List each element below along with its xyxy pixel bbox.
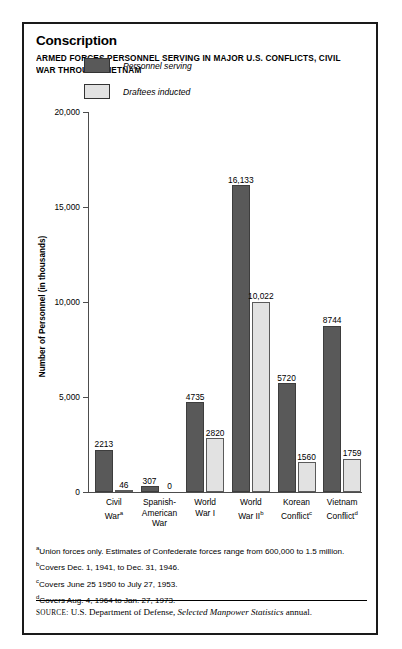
y-axis-tick <box>83 492 88 493</box>
x-axis-category-label: KoreanConflictc <box>281 497 312 521</box>
page-title: Conscription <box>36 33 117 48</box>
x-axis-line <box>88 492 362 493</box>
bar-personnel-serving: 307 <box>141 486 159 492</box>
footnote: bCovers Dec. 1, 1941, to Dec. 31, 1946. <box>36 558 366 574</box>
bar-value-label: 2820 <box>206 428 225 438</box>
bar-value-label: 10,022 <box>248 291 274 301</box>
bar-value-label: 46 <box>119 480 128 490</box>
bar-value-label: 5720 <box>277 373 296 383</box>
source-divider <box>36 600 367 601</box>
y-axis-tick-label: 20,000 <box>54 107 80 117</box>
y-axis-tick-label: 0 <box>75 487 80 497</box>
bar-value-label: 8744 <box>323 315 342 325</box>
bar-personnel-serving: 16,133 <box>232 185 250 492</box>
source-title-italic: Selected Manpower Statistics <box>177 607 283 617</box>
bar-value-label: 1759 <box>343 448 362 458</box>
y-axis-title: Number of Personnel (in thousands) <box>38 236 47 377</box>
y-axis-tick-label: 15,000 <box>54 202 80 212</box>
bar-value-label: 4735 <box>186 392 205 402</box>
y-axis-tick <box>83 397 88 398</box>
y-axis-tick <box>83 207 88 208</box>
x-axis-category-label: WorldWar IIb <box>238 497 263 521</box>
bar-personnel-serving: 4735 <box>186 402 204 492</box>
legend-swatch-draftees-inducted <box>84 84 110 99</box>
bar-draftees-inducted: 10,022 <box>252 302 270 492</box>
source-label: SOURCE: <box>36 609 68 617</box>
bar-draftees-inducted: 46 <box>115 490 133 492</box>
legend-item-draftees-inducted: Draftees inducted <box>84 84 192 99</box>
source-line: SOURCE: U.S. Department of Defense, Sele… <box>36 607 366 617</box>
plot-area: 05,00010,00015,00020,000 Number of Perso… <box>88 112 362 492</box>
bar-value-label: 16,133 <box>228 175 254 185</box>
bar-value-label: 2213 <box>95 439 114 449</box>
legend-label-personnel-serving: Personnel serving <box>123 61 192 71</box>
legend-item-personnel-serving: Personnel serving <box>84 58 192 73</box>
bar-value-label: 0 <box>167 481 172 491</box>
y-axis-tick <box>83 112 88 113</box>
footnote: aUnion forces only. Estimates of Confede… <box>36 542 366 558</box>
source-text-before: U.S. Department of Defense, <box>68 607 177 617</box>
bar-draftees-inducted: 1560 <box>298 462 316 492</box>
bar-draftees-inducted: 2820 <box>206 438 224 492</box>
y-axis-tick-label: 10,000 <box>54 297 80 307</box>
bar-personnel-serving: 5720 <box>278 383 296 492</box>
chart-legend: Personnel serving Draftees inducted <box>84 58 192 110</box>
y-axis-line <box>88 112 89 492</box>
bar-draftees-inducted: 1759 <box>343 459 361 492</box>
legend-swatch-personnel-serving <box>84 58 110 73</box>
footnote: cCovers June 25 1950 to July 27, 1953. <box>36 575 366 591</box>
footnote-list: aUnion forces only. Estimates of Confede… <box>36 542 366 607</box>
source-text-after: annual. <box>283 607 312 617</box>
y-axis-tick-label: 5,000 <box>59 392 80 402</box>
x-axis-category-label: Spanish-AmericanWar <box>142 497 177 529</box>
bar-personnel-serving: 8744 <box>323 326 341 492</box>
footnote: dCovers Aug. 4, 1964 to Jan. 27, 1973. <box>36 591 366 607</box>
y-axis-tick <box>83 302 88 303</box>
x-axis-category-label: CivilWara <box>105 497 123 521</box>
bar-personnel-serving: 2213 <box>95 450 113 492</box>
bar-value-label: 1560 <box>297 452 316 462</box>
bar-value-label: 307 <box>143 476 157 486</box>
chart-figure: Conscription ARMED FORCES PERSONNEL SERV… <box>22 22 378 635</box>
x-axis-category-label: VietnamConflictd <box>327 497 358 521</box>
x-axis-category-label: WorldWar I <box>194 497 216 518</box>
legend-label-draftees-inducted: Draftees inducted <box>123 87 190 97</box>
